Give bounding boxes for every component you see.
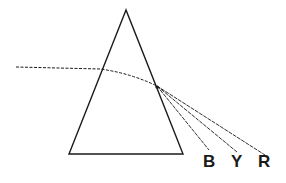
incident-ray (16, 67, 157, 86)
exit-point (155, 85, 158, 88)
label-red: R (258, 153, 270, 170)
ray-red (157, 86, 265, 155)
label-yellow: Y (231, 153, 242, 170)
prism-triangle (69, 10, 183, 154)
ray-blue (157, 86, 209, 150)
label-blue: B (203, 153, 215, 170)
prism-diagram (0, 0, 286, 183)
